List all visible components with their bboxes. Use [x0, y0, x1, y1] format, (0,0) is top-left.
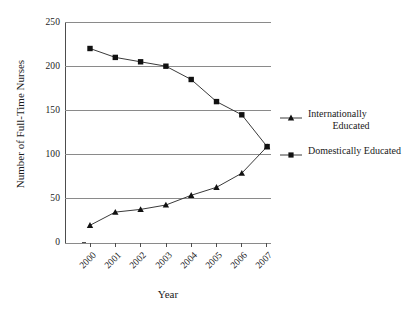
x-tick-mark-3	[166, 243, 167, 247]
data-point-square	[87, 46, 92, 51]
series-internationally-educated	[87, 143, 270, 228]
legend-item-domestically-educated[interactable]: Domestically Educated	[288, 145, 408, 157]
series-domestically-educated	[87, 46, 269, 149]
x-axis-title: Year	[65, 288, 271, 300]
data-point-square	[214, 99, 219, 104]
data-point-triangle	[163, 202, 169, 208]
data-point-square	[189, 77, 194, 82]
legend-label-line1: Internationally	[308, 108, 367, 119]
x-tick-mark-0	[90, 243, 91, 247]
chart-legend: Internationally Educated Domestically Ed…	[288, 108, 408, 170]
legend-label-domestically-educated: Domestically Educated	[308, 145, 408, 157]
legend-marker-triangle-icon	[280, 113, 302, 123]
data-point-square	[163, 64, 168, 69]
x-tick-mark-1	[115, 243, 116, 247]
x-tick-mark-4	[191, 243, 192, 247]
data-point-triangle	[213, 184, 219, 190]
series-line	[90, 49, 267, 147]
legend-item-internationally-educated[interactable]: Internationally Educated	[288, 108, 408, 132]
data-point-square	[138, 59, 143, 64]
data-point-triangle	[87, 222, 93, 228]
data-point-square	[113, 55, 118, 60]
x-tick-mark-6	[241, 243, 242, 247]
legend-label-line2: Educated	[308, 120, 408, 132]
legend-label-internationally-educated: Internationally Educated	[308, 108, 408, 132]
x-tick-mark-2	[140, 243, 141, 247]
chart-figure: Number of Full-Time Nurses 250 200 150 1…	[0, 0, 411, 313]
x-tick-mark-7	[266, 243, 267, 247]
x-tick-mark-5	[216, 243, 217, 247]
data-point-square	[239, 112, 244, 117]
legend-marker-square-icon	[280, 150, 302, 160]
